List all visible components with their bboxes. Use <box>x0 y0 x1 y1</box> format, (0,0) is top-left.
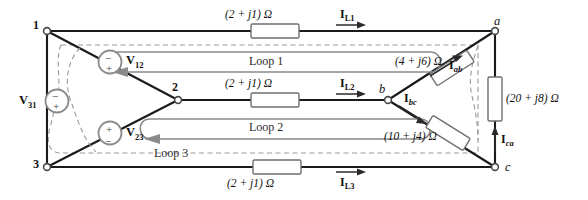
current-label-il3: IL3 <box>340 176 355 191</box>
impedance-label-line1: (2 + j1) Ω <box>225 9 272 21</box>
resistor-line3 <box>253 160 301 174</box>
node-label-2: 2 <box>172 81 178 93</box>
node-label-c: c <box>505 161 511 174</box>
circuit-schematic-svg <box>0 0 588 200</box>
resistor-line1 <box>251 24 299 38</box>
source-label-v31-text: V <box>19 93 28 107</box>
source-label-v12: V12 <box>126 54 144 69</box>
impedance-label-ab: (4 + j6) Ω <box>395 56 442 68</box>
current-label-il1-sub: L1 <box>345 13 355 23</box>
node-label-3: 3 <box>33 158 39 170</box>
loop3-left-dashed-detail <box>67 48 96 152</box>
v23-plus-sign: + <box>106 124 112 135</box>
current-label-il3-sub: L3 <box>345 181 355 191</box>
source-label-v31-sub: 31 <box>28 100 37 110</box>
impedance-label-ca: (20 + j8) Ω <box>506 93 559 105</box>
node-label-a: a <box>494 15 500 28</box>
source-label-v23: V23 <box>126 126 144 141</box>
node-dot-c <box>492 164 499 171</box>
loop-label-1: Loop 1 <box>249 55 283 67</box>
node-dot-2 <box>175 97 182 104</box>
v23-minus-sign: − <box>105 136 111 147</box>
node-dot-3 <box>44 164 51 171</box>
current-label-iab-sub: ab <box>454 64 463 74</box>
resistor-line2 <box>251 93 299 107</box>
node-label-1: 1 <box>33 19 39 31</box>
current-label-il2: IL2 <box>340 77 355 92</box>
loop-label-2: Loop 2 <box>249 121 283 133</box>
source-label-v23-text: V <box>126 125 135 139</box>
source-label-v12-text: V <box>126 53 135 67</box>
resistor-ca <box>488 77 502 121</box>
current-label-ibc: Ibc <box>404 92 417 107</box>
current-label-ica-sub: ca <box>506 138 514 148</box>
v31-plus-sign: + <box>53 101 59 112</box>
current-label-il2-sub: L2 <box>345 82 355 92</box>
node-dot-b <box>385 97 392 104</box>
circuit-diagram-figure: 1 2 3 a b c (2 + j1) Ω (2 + j1) Ω (2 + j… <box>0 0 588 200</box>
node-label-b: b <box>379 83 385 96</box>
impedance-label-line2: (2 + j1) Ω <box>225 78 272 90</box>
source-label-v12-sub: 12 <box>135 60 144 70</box>
node-dot-a <box>492 28 499 35</box>
current-label-ica: Ica <box>501 133 514 148</box>
current-label-ibc-sub: bc <box>409 97 417 107</box>
v12-plus-sign: + <box>106 63 112 74</box>
source-label-v31: V31 <box>19 94 37 109</box>
node-dot-1 <box>44 28 51 35</box>
impedance-label-line3: (2 + j1) Ω <box>227 178 274 190</box>
current-label-iab: Iab <box>449 59 462 74</box>
current-label-il1: IL1 <box>340 8 355 23</box>
source-label-v23-sub: 23 <box>135 132 144 142</box>
impedance-label-bc: (10 + j4) Ω <box>384 131 437 143</box>
loop-label-3: Loop 3 <box>154 147 188 159</box>
